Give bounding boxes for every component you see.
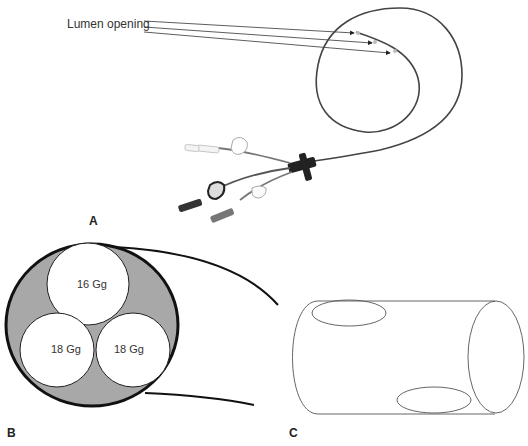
figure-canvas — [0, 0, 528, 446]
lumen-arrow-1 — [144, 21, 354, 33]
lumen-arrow-3 — [144, 32, 390, 53]
lumen-label-16gg: 16 Gg — [77, 278, 107, 290]
panel-a-catheter — [144, 8, 462, 223]
lumen-label-18gg-right: 18 Gg — [114, 343, 144, 355]
lumen-label-18gg-left: 18 Gg — [51, 343, 81, 355]
panel-b-cross-section — [6, 243, 278, 406]
panel-c-letter: C — [289, 426, 298, 440]
panel-c-cylinder — [293, 300, 525, 414]
panel-a-letter: A — [89, 214, 98, 228]
catheter-hub — [287, 152, 317, 181]
lumen-opening-label: Lumen opening — [67, 17, 150, 31]
panel-b-letter: B — [7, 426, 16, 440]
